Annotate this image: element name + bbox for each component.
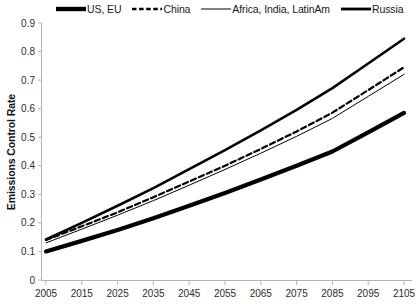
y-axis-tick-label: 0.6 <box>21 103 35 114</box>
x-axis-tick-label: 2065 <box>250 288 273 299</box>
y-axis-tick-label: 0.9 <box>21 18 35 29</box>
y-axis-tick-label: 0.3 <box>21 189 35 200</box>
y-axis-tick-label: 0.1 <box>21 246 35 257</box>
x-axis-tick-label: 2095 <box>357 288 380 299</box>
y-axis-tick-label: 0.8 <box>21 46 35 57</box>
emissions-control-rate-chart: US, EU China Africa, India, LatinAm <box>0 0 418 304</box>
x-axis-tick-label: 2045 <box>178 288 201 299</box>
y-axis-tick-label: 0.5 <box>21 132 35 143</box>
x-axis-tick-label: 2035 <box>142 288 165 299</box>
x-axis-tick-label: 2085 <box>321 288 344 299</box>
series-line-africa-india-latinam <box>46 74 404 242</box>
y-axis-tick-label: 0.7 <box>21 75 35 86</box>
x-axis-tick-label: 2075 <box>285 288 308 299</box>
y-axis-tick-label: 0.2 <box>21 217 35 228</box>
plot-svg: 00.10.20.30.40.50.60.70.80.9200520152025… <box>0 0 418 304</box>
series-line-us-eu <box>46 113 404 251</box>
y-axis-tick-label: 0 <box>29 275 35 286</box>
x-axis-tick-label: 2105 <box>393 288 416 299</box>
y-axis-tick-label: 0.4 <box>21 160 35 171</box>
plot-area: 00.10.20.30.40.50.60.70.80.9200520152025… <box>0 0 418 304</box>
series-line-russia <box>46 39 404 240</box>
x-axis-tick-label: 2025 <box>106 288 129 299</box>
x-axis-tick-label: 2015 <box>71 288 94 299</box>
x-axis-tick-label: 2005 <box>35 288 58 299</box>
x-axis-tick-label: 2055 <box>214 288 237 299</box>
